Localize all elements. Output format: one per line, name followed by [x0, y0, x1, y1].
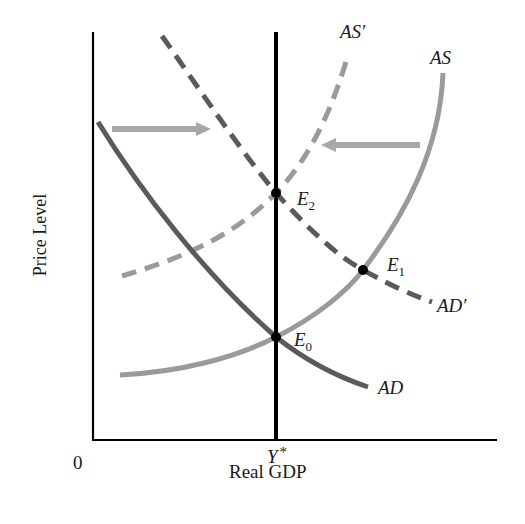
ad-label: AD: [378, 378, 403, 397]
origin-label: 0: [73, 453, 83, 472]
e2-label: E2: [297, 189, 315, 208]
as-prime-curve: [122, 55, 348, 276]
point-e1: [358, 265, 368, 275]
as-shift-arrow: [321, 138, 420, 152]
point-e2: [271, 188, 281, 198]
y-axis-label: Price Level: [30, 194, 51, 276]
e1-label: E1: [387, 255, 405, 274]
ystar-label: Y*: [267, 447, 285, 466]
as-label: AS: [430, 48, 451, 67]
as-prime-label: AS′: [340, 22, 365, 41]
ad-shift-arrow: [112, 122, 211, 136]
ad-prime-label: AD′: [437, 296, 466, 315]
ad-as-diagram: [0, 0, 525, 524]
ad-curve: [98, 122, 368, 387]
point-e0: [271, 332, 281, 342]
e0-label: E0: [294, 330, 312, 349]
